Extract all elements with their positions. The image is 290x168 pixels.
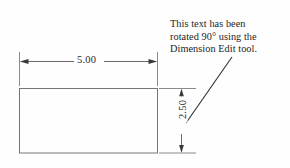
dimension-value-horizontal: 5.00: [74, 54, 99, 65]
leader-line: [186, 57, 232, 123]
arrowhead-top: [179, 89, 184, 97]
arrowhead-right: [149, 59, 158, 64]
arrowhead-bottom: [179, 145, 184, 153]
drawing-canvas: 5.00 2.50 This text has been rotated 90°…: [0, 0, 290, 168]
rectangle-shape: [20, 89, 158, 154]
annotation-note: This text has been rotated 90° using the…: [170, 18, 288, 56]
dimension-value-vertical: 2.50: [177, 97, 188, 123]
annotation-line-3: Dimension Edit tool.: [170, 43, 288, 56]
annotation-line-1: This text has been: [170, 18, 288, 31]
annotation-line-2: rotated 90° using the: [170, 31, 288, 44]
arrowhead-left: [20, 59, 29, 64]
